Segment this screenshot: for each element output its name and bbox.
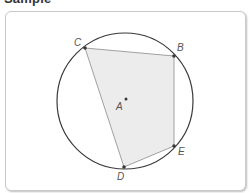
inscribed-quadrilateral-cbed [85,48,174,167]
label-b: B [177,42,184,53]
label-a: A [115,101,123,112]
point-a [125,98,128,101]
label-e: E [178,146,185,157]
circle-diagram: A B C D E [0,0,250,193]
point-d [122,165,126,169]
label-d: D [117,171,124,182]
point-e [172,144,176,148]
point-b [172,54,176,58]
label-c: C [74,37,82,48]
point-c [83,46,87,50]
